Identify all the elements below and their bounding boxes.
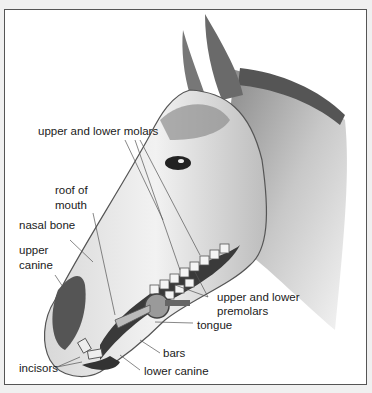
label-roof-of-mouth-line2: mouth	[55, 198, 87, 213]
label-nasal-bone: nasal bone	[19, 218, 75, 233]
label-upper-canine-line2: canine	[19, 258, 53, 273]
label-upper-lower-molars: upper and lower molars	[38, 124, 158, 139]
right-ear	[205, 14, 243, 100]
left-ear	[182, 30, 205, 95]
label-bars: bars	[163, 346, 185, 361]
label-lower-canine: lower canine	[144, 364, 209, 379]
label-upper-lower-premolars-line2: premolars	[217, 304, 268, 319]
label-tongue: tongue	[197, 318, 232, 333]
label-incisors: incisors	[19, 361, 58, 376]
eye	[165, 156, 191, 170]
label-upper-canine-line1: upper	[19, 243, 48, 258]
label-roof-of-mouth-line1: roof of	[55, 183, 88, 198]
label-upper-lower-premolars-line1: upper and lower	[217, 290, 299, 305]
